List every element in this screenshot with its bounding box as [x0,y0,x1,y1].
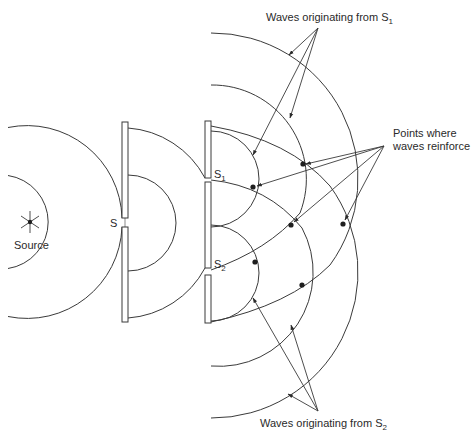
pointer-arrow [257,146,384,186]
pointer-arrow [306,146,384,164]
source-icon [21,211,39,233]
pointer-arrow [345,146,384,220]
s2-wave-3 [211,126,358,418]
source-wave-outer [8,126,122,319]
reinforce-point [288,222,293,227]
barrier-1-bottom [122,227,128,322]
slit-s-label: S [110,217,117,229]
reinforce-pointers [257,146,384,222]
source-label: Source [14,239,49,251]
barrier-2-middle [205,182,211,268]
pointer-arrow [253,298,318,411]
reinforce-point [299,282,304,287]
slit-s-wave-outer [128,128,205,318]
reinforce-label-line1: Points where [393,127,457,139]
waves-s1-label: Waves originating from S1 [266,11,393,26]
waves-s2-pointers [253,298,318,411]
pointer-arrow [253,28,318,155]
reinforce-point [300,161,305,166]
reinforce-point [252,259,257,264]
barrier-1-top [122,122,128,218]
s2-wave-2 [211,180,313,366]
s2-wave-1 [211,225,259,321]
barrier-2-bottom [205,275,211,323]
pointer-arrow [294,146,384,222]
reinforce-point [250,184,255,189]
waves-s2-label: Waves originating from S2 [260,417,387,432]
reinforce-point [340,221,345,226]
slit-s-wave-inner [128,175,176,271]
barrier-2-top [205,121,211,178]
slit-s2-label: S2 [214,258,226,273]
waves-from-s2 [211,126,358,418]
interference-diagram: Source S S1 S2 Waves originating from S1… [0,0,475,433]
waves-s1-pointers [253,28,318,155]
reinforce-label-line2: waves reinforce [392,140,470,152]
